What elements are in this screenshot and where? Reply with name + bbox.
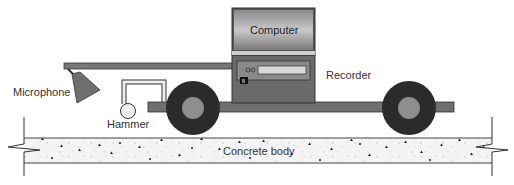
wheel-rear — [382, 81, 436, 135]
hammer-bracket — [121, 82, 165, 119]
wheel-front — [166, 81, 220, 135]
hammer-label: Hammer — [107, 118, 149, 130]
recorder-label: Recorder — [326, 69, 371, 81]
microphone-arm — [64, 63, 236, 75]
concrete-label: Concrete body — [223, 145, 295, 157]
microphone-label: Microphone — [13, 86, 70, 98]
recorder — [232, 55, 315, 103]
microphone-icon — [72, 72, 100, 103]
computer-label: Computer — [250, 24, 298, 36]
